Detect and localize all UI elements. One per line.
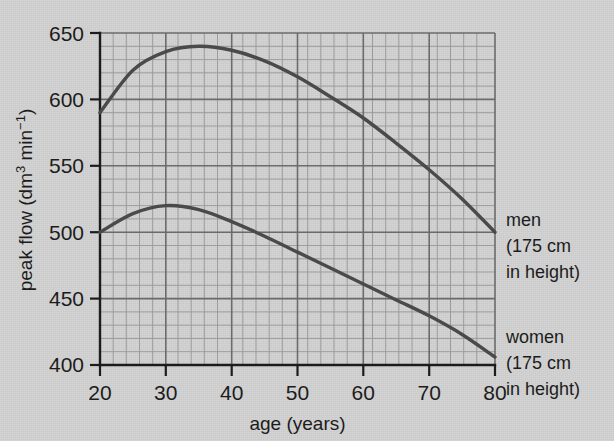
- y-tick-label: 650: [49, 22, 84, 45]
- y-axis-ticks: [90, 33, 100, 365]
- y-tick-labels: 650 600 550 500 450 400: [49, 22, 84, 376]
- grid-minor-vertical: [113, 33, 477, 365]
- x-tick-labels: 20 30 40 50 60 70 80: [88, 381, 506, 404]
- y-axis-title-prefix: peak flow (dm: [15, 173, 36, 291]
- women-annotation-line-2: (175 cm: [506, 353, 571, 373]
- x-tick-label: 60: [352, 381, 375, 404]
- y-axis-title-sup-inverse: −1: [13, 115, 28, 130]
- men-annotation-line-1: men: [506, 210, 541, 230]
- men-annotation: men (175 cm in height): [506, 210, 580, 282]
- y-axis-title-sup-volume: 3: [13, 166, 28, 173]
- x-tick-label: 70: [418, 381, 441, 404]
- x-tick-label: 30: [154, 381, 177, 404]
- x-axis-ticks: [100, 365, 495, 376]
- women-annotation-line-1: women: [505, 327, 564, 347]
- y-tick-label: 600: [49, 88, 84, 111]
- x-tick-label: 80: [483, 381, 506, 404]
- y-tick-label: 550: [49, 154, 84, 177]
- men-annotation-line-2: (175 cm: [506, 236, 571, 256]
- women-annotation-line-3: in height): [506, 379, 580, 399]
- x-tick-label: 20: [88, 381, 111, 404]
- peak-flow-line-chart: 650 600 550 500 450 400 20 30 40 50 60 7…: [0, 0, 614, 441]
- y-axis-title-middle: min: [15, 130, 36, 166]
- men-annotation-line-3: in height): [506, 262, 580, 282]
- x-tick-label: 40: [220, 381, 243, 404]
- y-axis-title: peak flow (dm3 min−1): [13, 109, 36, 292]
- y-axis-title-suffix: ): [15, 109, 36, 115]
- x-tick-label: 50: [286, 381, 309, 404]
- y-tick-label: 500: [49, 221, 84, 244]
- y-tick-label: 400: [49, 353, 84, 376]
- chart-figure: 650 600 550 500 450 400 20 30 40 50 60 7…: [0, 0, 614, 441]
- grid-major-vertical: [166, 33, 495, 365]
- y-tick-label: 450: [49, 287, 84, 310]
- women-annotation: women (175 cm in height): [505, 327, 580, 399]
- x-axis-title: age (years): [249, 413, 345, 434]
